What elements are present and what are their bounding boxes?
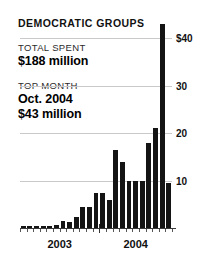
x-axis-tick	[73, 229, 74, 232]
bar	[133, 181, 138, 228]
x-axis-tick	[33, 229, 34, 232]
bar	[113, 150, 118, 228]
x-axis-label: 2004	[123, 238, 147, 250]
x-axis-year-divider	[99, 224, 100, 233]
bar	[146, 143, 151, 229]
x-axis-tick	[53, 229, 54, 232]
x-axis-tick	[139, 229, 140, 232]
bar	[153, 128, 158, 228]
x-axis-tick	[60, 229, 61, 232]
x-axis-tick	[79, 229, 80, 232]
gridline	[20, 38, 172, 39]
x-axis-tick	[46, 229, 47, 232]
x-axis-tick	[152, 229, 153, 232]
x-axis-tick	[86, 229, 87, 232]
x-axis-tick	[113, 229, 114, 232]
plot-area	[20, 30, 172, 228]
bar	[74, 217, 79, 228]
bar	[80, 207, 85, 228]
bar	[94, 193, 99, 228]
bar	[140, 181, 145, 229]
bar	[61, 221, 66, 228]
x-axis-tick	[66, 229, 67, 232]
x-axis-tick	[93, 229, 94, 232]
x-axis-tick	[27, 229, 28, 232]
bar	[107, 200, 112, 228]
y-axis-tick-label: 10	[176, 175, 187, 186]
x-axis-tick	[159, 229, 160, 232]
x-axis-tick	[126, 229, 127, 232]
x-axis-tick	[20, 229, 21, 232]
bar	[127, 181, 132, 229]
gridline	[20, 86, 172, 87]
bar	[120, 162, 125, 229]
bar	[166, 183, 171, 228]
gridline	[20, 133, 172, 134]
x-axis-tick	[106, 229, 107, 232]
bar-chart: $4030201020032004	[0, 0, 216, 269]
x-axis-tick	[165, 229, 166, 232]
bar	[160, 24, 165, 228]
bar	[100, 193, 105, 228]
y-axis-tick-label: 20	[176, 128, 187, 139]
y-axis-tick-label: $40	[176, 33, 193, 44]
y-axis-tick-label: 30	[176, 80, 187, 91]
x-axis-tick	[40, 229, 41, 232]
x-axis-tick	[146, 229, 147, 232]
infographic-panel: DEMOCRATIC GROUPS TOTAL SPENT $188 milli…	[0, 0, 216, 269]
x-axis-tick	[132, 229, 133, 232]
bar	[87, 207, 92, 228]
x-axis-tick	[119, 229, 120, 232]
x-axis-label: 2003	[47, 238, 71, 250]
x-axis-tick	[172, 229, 173, 232]
